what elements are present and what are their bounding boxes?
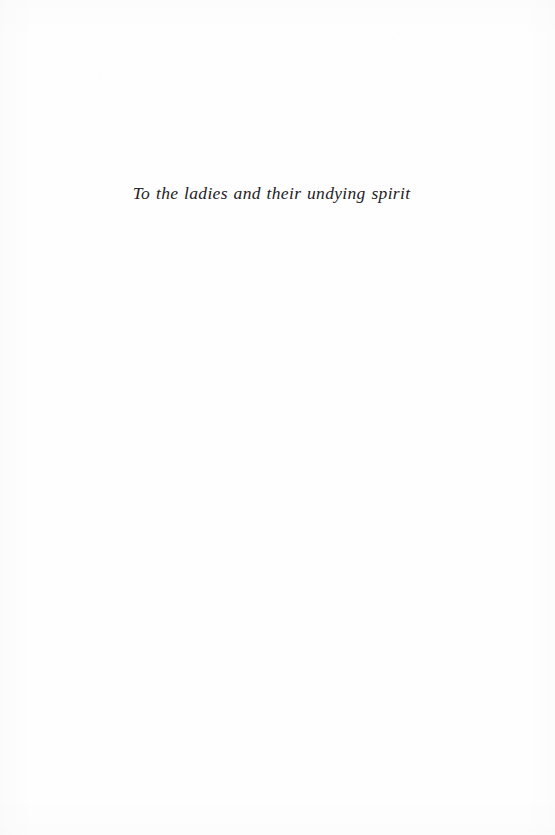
dedication-text: To the ladies and their undying spirit xyxy=(133,182,411,204)
dedication-block: To the ladies and their undying spirit xyxy=(0,182,555,204)
book-page: To the ladies and their undying spirit xyxy=(0,0,555,835)
